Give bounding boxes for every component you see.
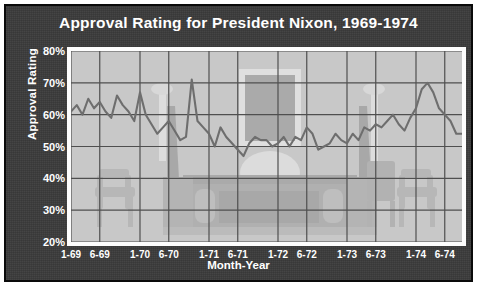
y-tick-label: 20% bbox=[7, 236, 65, 248]
chart-canvas bbox=[71, 51, 462, 242]
plot-area-border bbox=[67, 47, 466, 246]
x-tick-label: 6-71 bbox=[228, 249, 248, 260]
y-tick-label: 50% bbox=[7, 141, 65, 153]
y-tick-label: 30% bbox=[7, 204, 65, 216]
y-tick-label: 60% bbox=[7, 109, 65, 121]
y-tick-label: 70% bbox=[7, 77, 65, 89]
x-tick-label: 6-73 bbox=[366, 249, 386, 260]
data-series-line bbox=[71, 80, 462, 156]
x-axis-tick-labels: 1-696-691-706-701-716-711-726-721-736-73… bbox=[67, 249, 466, 265]
x-tick-label: 6-74 bbox=[435, 249, 455, 260]
x-tick-label: 1-71 bbox=[199, 249, 219, 260]
chart-frame: Approval Rating for President Nixon, 196… bbox=[4, 4, 473, 282]
x-tick-label: 1-73 bbox=[337, 249, 357, 260]
y-axis-tick-labels: 80%70%60%50%40%30%20% bbox=[6, 47, 65, 246]
x-tick-label: 1-70 bbox=[130, 249, 150, 260]
chart-title: Approval Rating for President Nixon, 196… bbox=[6, 14, 471, 32]
x-tick-label: 6-72 bbox=[297, 249, 317, 260]
x-tick-label: 1-72 bbox=[268, 249, 288, 260]
x-tick-label: 1-74 bbox=[406, 249, 426, 260]
y-tick-label: 40% bbox=[7, 172, 65, 184]
x-tick-label: 6-69 bbox=[90, 249, 110, 260]
y-tick-label: 80% bbox=[7, 45, 65, 57]
x-tick-label: 6-70 bbox=[159, 249, 179, 260]
x-tick-label: 1-69 bbox=[61, 249, 81, 260]
plot-area bbox=[71, 51, 462, 242]
gridlines bbox=[71, 51, 462, 242]
